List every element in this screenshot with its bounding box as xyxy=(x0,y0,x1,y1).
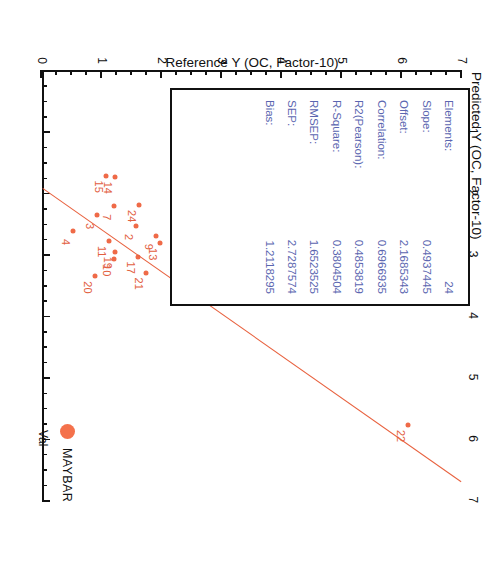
y-tick xyxy=(56,70,58,75)
y-tick xyxy=(41,70,43,78)
x-tick xyxy=(42,85,47,87)
y-tick xyxy=(161,70,163,78)
y-tick xyxy=(116,70,118,75)
y-tick-label: 3 xyxy=(215,50,229,64)
y-tick-label: 0 xyxy=(35,50,49,64)
y-tick xyxy=(461,70,463,78)
statistic-value: 0.4937445 xyxy=(415,240,437,294)
y-tick xyxy=(221,70,223,78)
data-point xyxy=(112,204,117,209)
x-tick xyxy=(42,485,47,487)
statistic-value: 2.1685343 xyxy=(393,240,415,294)
statistic-value: 24 xyxy=(438,281,460,294)
y-tick xyxy=(401,70,403,78)
statistic-row: R-Square:0.3804504 xyxy=(325,100,347,294)
x-tick xyxy=(42,423,47,425)
data-point-label: 24 xyxy=(126,210,138,222)
x-tick xyxy=(42,208,47,210)
x-tick xyxy=(42,331,47,333)
data-point xyxy=(157,241,162,246)
y-axis-line xyxy=(42,70,462,72)
y-tick xyxy=(311,70,313,75)
data-point xyxy=(137,203,142,208)
statistic-row: Elements:24 xyxy=(438,100,460,294)
data-point xyxy=(71,228,76,233)
y-tick-label: 6 xyxy=(395,50,409,64)
x-tick xyxy=(42,362,47,364)
data-point-label: 14 xyxy=(102,182,114,194)
statistic-key: Elements: xyxy=(438,100,460,151)
data-point xyxy=(103,173,108,178)
y-tick xyxy=(266,70,268,75)
statistic-value: 1.6523525 xyxy=(303,240,325,294)
statistic-value: 2.7287574 xyxy=(281,240,303,294)
x-tick-label: 4 xyxy=(466,312,480,319)
statistic-row: Correlation:0.6966935 xyxy=(370,100,392,294)
statistic-key: R2(Pearson): xyxy=(348,100,370,168)
data-point xyxy=(133,224,138,229)
statistic-key: RMSEP: xyxy=(303,100,325,144)
statistic-row: Bias:1.2118295 xyxy=(258,100,280,294)
y-tick xyxy=(236,70,238,75)
y-tick xyxy=(326,70,328,75)
data-point xyxy=(107,238,112,243)
x-tick xyxy=(42,147,47,149)
x-tick xyxy=(42,70,50,72)
y-tick xyxy=(431,70,433,75)
data-point xyxy=(144,270,149,275)
x-tick xyxy=(42,454,47,456)
data-point-label: 10 xyxy=(101,264,113,276)
x-axis-title: Predicted Y (OC, Factor-10) xyxy=(469,72,484,240)
x-tick xyxy=(42,408,47,410)
statistic-row: RMSEP:1.6523525 xyxy=(303,100,325,294)
x-tick xyxy=(42,300,47,302)
statistic-row: Offset:2.1685343 xyxy=(393,100,415,294)
data-point-label: 7 xyxy=(101,214,113,220)
data-point-label: 17 xyxy=(125,262,137,274)
data-point-label: 13 xyxy=(147,248,159,260)
statistic-row: SEP:2.7287574 xyxy=(281,100,303,294)
series-val-label: Val xyxy=(36,430,50,446)
y-tick xyxy=(146,70,148,75)
data-point-label: 20 xyxy=(82,281,94,293)
statistic-value: 0.3804504 xyxy=(325,240,347,294)
series-legend: MAYBAR xyxy=(60,424,75,502)
y-tick xyxy=(101,70,103,78)
statistic-value: 0.6966935 xyxy=(370,240,392,294)
y-tick xyxy=(281,70,283,78)
y-tick-label: 5 xyxy=(335,50,349,64)
y-tick xyxy=(446,70,448,75)
statistic-value: 1.2118295 xyxy=(258,240,280,294)
y-tick-label: 2 xyxy=(155,50,169,64)
x-tick xyxy=(42,101,47,103)
data-point xyxy=(95,212,100,217)
data-point xyxy=(113,249,118,254)
x-tick xyxy=(42,254,50,256)
x-tick xyxy=(42,285,47,287)
data-point-label: 2 xyxy=(123,234,135,240)
statistic-key: Correlation: xyxy=(370,100,392,159)
data-point-label: 4 xyxy=(60,239,72,245)
x-tick xyxy=(42,393,47,395)
x-tick xyxy=(42,346,47,348)
x-tick xyxy=(42,500,50,502)
x-tick-label: 5 xyxy=(466,374,480,381)
x-tick xyxy=(42,316,50,318)
statistic-row: R2(Pearson):0.4853819 xyxy=(348,100,370,294)
x-tick xyxy=(42,270,47,272)
statistic-value: 0.4853819 xyxy=(348,240,370,294)
statistic-key: R-Square: xyxy=(325,100,347,152)
rotated-chart-stage: Predicted Y (OC, Factor-10) Reference Y … xyxy=(0,0,490,588)
y-axis-title: Reference Y (OC, Factor-10) xyxy=(166,55,339,70)
y-tick xyxy=(131,70,133,75)
x-tick-label: 7 xyxy=(466,497,480,504)
data-point xyxy=(92,274,97,279)
x-tick xyxy=(42,131,50,133)
y-tick xyxy=(356,70,358,75)
y-tick xyxy=(206,70,208,75)
y-tick xyxy=(191,70,193,75)
y-tick xyxy=(371,70,373,75)
statistics-legend-box: Elements:24Slope:0.4937445Offset:2.16853… xyxy=(170,88,470,306)
x-tick xyxy=(42,377,50,379)
y-tick-label: 1 xyxy=(95,50,109,64)
